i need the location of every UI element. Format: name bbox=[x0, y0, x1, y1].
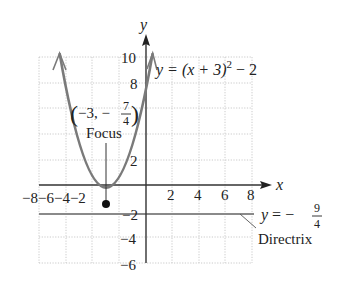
focus-coordinate-label: ( −3, − 7 4 ) bbox=[70, 99, 139, 128]
directrix-leader bbox=[240, 214, 256, 228]
tick-y-8: 8 bbox=[130, 76, 138, 92]
svg-text:): ) bbox=[131, 101, 139, 127]
axes bbox=[39, 44, 262, 263]
tick-x-4: 4 bbox=[194, 187, 202, 203]
tick-y-n2: −2 bbox=[122, 207, 138, 223]
svg-text:y = (x + 3)2 − 2: y = (x + 3)2 − 2 bbox=[154, 58, 257, 79]
tick-x-6: 6 bbox=[221, 187, 229, 203]
x-axis-label: x bbox=[275, 176, 283, 193]
focus-point bbox=[102, 200, 110, 208]
equation-label: y = (x + 3)2 − 2 bbox=[154, 58, 257, 79]
y-axis-label: y bbox=[138, 16, 148, 34]
focus-label: Focus bbox=[86, 125, 122, 141]
svg-text:(: ( bbox=[70, 101, 78, 127]
tick-x-8: 8 bbox=[247, 187, 255, 203]
svg-text:4: 4 bbox=[314, 217, 320, 231]
tick-y-10: 10 bbox=[121, 50, 136, 66]
tick-y-n4: −4 bbox=[120, 231, 136, 247]
tick-x-negatives: −8−6−4−2 bbox=[22, 190, 86, 206]
svg-text:y = −: y = − bbox=[259, 206, 294, 224]
parabola-chart: x y 10 8 2 −2 −4 −6 −8−6−4−2 2 4 6 8 y =… bbox=[0, 0, 342, 281]
tick-x-2: 2 bbox=[167, 187, 175, 203]
tick-y-n6: −6 bbox=[120, 257, 136, 273]
directrix-label: Directrix bbox=[258, 231, 313, 247]
svg-text:7: 7 bbox=[123, 99, 129, 113]
tick-y-2: 2 bbox=[130, 153, 138, 169]
svg-text:9: 9 bbox=[314, 201, 320, 215]
svg-text:−3, −: −3, − bbox=[78, 105, 110, 121]
directrix-equation-label: y = − 9 4 bbox=[259, 201, 322, 231]
svg-text:4: 4 bbox=[123, 114, 129, 128]
